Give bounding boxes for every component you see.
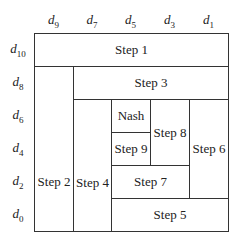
row-label-d8: d8: [4, 74, 32, 92]
step-8-cell: Step 8: [150, 99, 190, 166]
step-3-cell: Step 3: [73, 66, 229, 100]
step-6-cell: Step 6: [189, 99, 229, 199]
column-label-d7: d7: [73, 12, 111, 30]
step-1-cell: Step 1: [34, 33, 229, 67]
row-label-d2: d2: [4, 173, 32, 191]
row-label-d10: d10: [4, 41, 32, 59]
step-8-label: Step 8: [154, 125, 187, 141]
column-label-d5: d5: [111, 12, 150, 30]
step-5-label: Step 5: [154, 207, 187, 223]
step-7-cell: Step 7: [111, 165, 190, 199]
column-label-d3: d3: [150, 12, 189, 30]
column-label-d1: d1: [189, 12, 228, 30]
step-2-label: Step 2: [38, 174, 71, 190]
step-9-cell: Step 9: [111, 132, 151, 166]
step-5-cell: Step 5: [111, 198, 229, 232]
nash-cell: Nash: [111, 99, 151, 133]
step-7-label: Step 7: [134, 174, 167, 190]
step-3-label: Step 3: [135, 75, 168, 91]
row-label-d6: d6: [4, 107, 32, 125]
row-label-d0: d0: [4, 206, 32, 224]
step-1-label: Step 1: [115, 42, 148, 58]
step-4-cell: Step 4: [73, 99, 112, 232]
step-6-label: Step 6: [193, 141, 226, 157]
nash-label: Nash: [118, 108, 145, 124]
column-label-d9: d9: [34, 12, 73, 30]
step-4-label: Step 4: [76, 175, 109, 191]
step-9-label: Step 9: [115, 141, 148, 157]
row-label-d4: d4: [4, 140, 32, 158]
step-2-cell: Step 2: [34, 66, 74, 232]
